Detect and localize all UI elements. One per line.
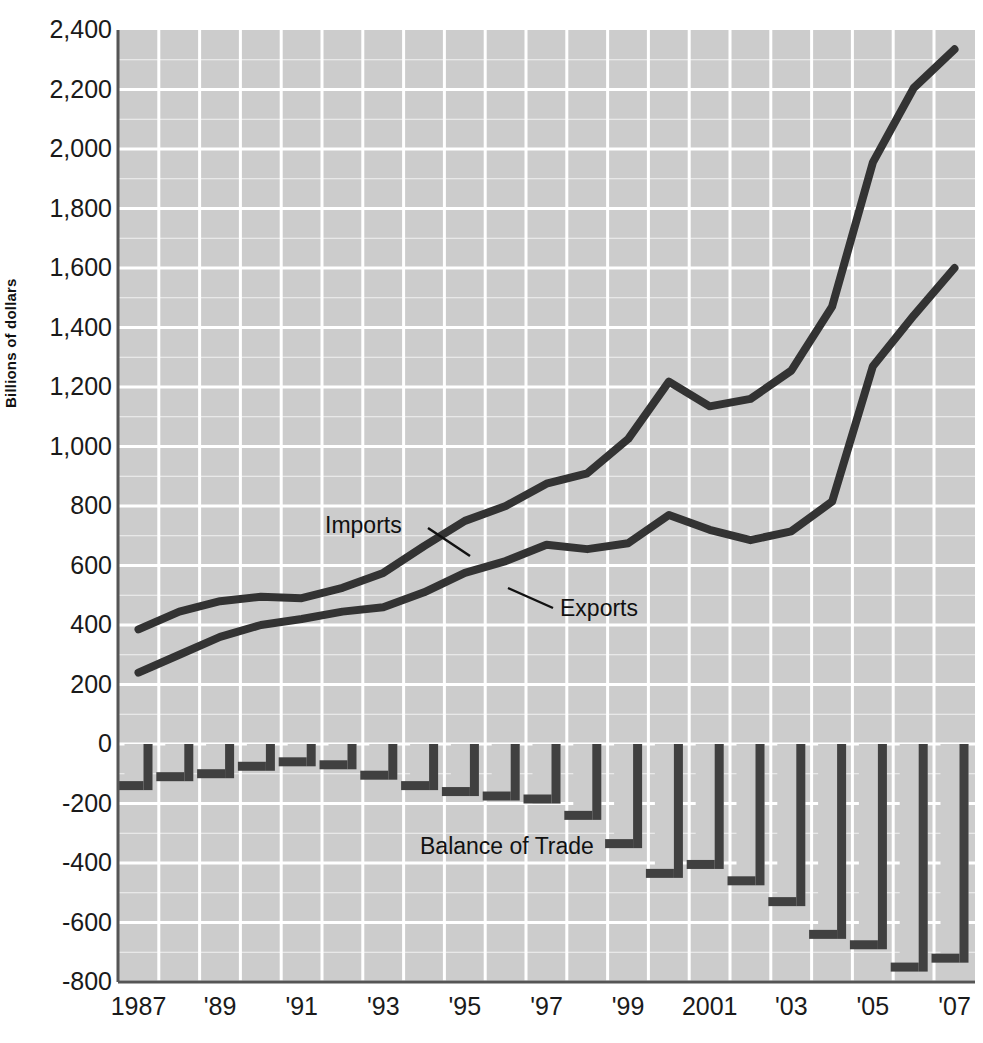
x-tick-label: '93: [367, 992, 400, 1021]
y-tick-label: -600: [16, 910, 112, 935]
y-tick-label: -200: [16, 791, 112, 816]
trade-chart-figure: Billions of dollars 2,4002,2002,0001,800…: [0, 0, 983, 1043]
y-tick-label: 1,200: [16, 374, 112, 399]
x-tick-label: 1987: [111, 992, 167, 1021]
y-tick-label: 1,000: [16, 434, 112, 459]
y-tick-label: 400: [16, 612, 112, 637]
x-tick-label: 2001: [682, 992, 738, 1021]
x-tick-label: '05: [857, 992, 890, 1021]
y-tick-label: 1,800: [16, 196, 112, 221]
y-tick-label: -400: [16, 850, 112, 875]
x-tick-label: '89: [204, 992, 237, 1021]
y-tick-label: 800: [16, 493, 112, 518]
y-tick-label: 2,000: [16, 136, 112, 161]
x-tick-label: '91: [285, 992, 318, 1021]
x-tick-label: '07: [938, 992, 971, 1021]
x-tick-label: '95: [449, 992, 482, 1021]
chart-plot-area: [0, 0, 983, 1043]
x-tick-label: '97: [530, 992, 563, 1021]
y-tick-label: 2,400: [16, 17, 112, 42]
y-tick-label: 1,600: [16, 255, 112, 280]
y-tick-label: 2,200: [16, 77, 112, 102]
y-axis-tick-labels: 2,4002,2002,0001,8001,6001,4001,2001,000…: [0, 0, 112, 1043]
x-tick-label: '99: [612, 992, 645, 1021]
balance-of-trade-series-label: Balance of Trade: [420, 833, 594, 860]
y-tick-label: -800: [16, 969, 112, 994]
x-tick-label: '03: [775, 992, 808, 1021]
y-tick-label: 200: [16, 672, 112, 697]
y-tick-label: 1,400: [16, 315, 112, 340]
y-tick-label: 600: [16, 553, 112, 578]
y-tick-label: 0: [16, 731, 112, 756]
imports-series-label: Imports: [325, 512, 402, 539]
exports-series-label: Exports: [560, 595, 638, 622]
